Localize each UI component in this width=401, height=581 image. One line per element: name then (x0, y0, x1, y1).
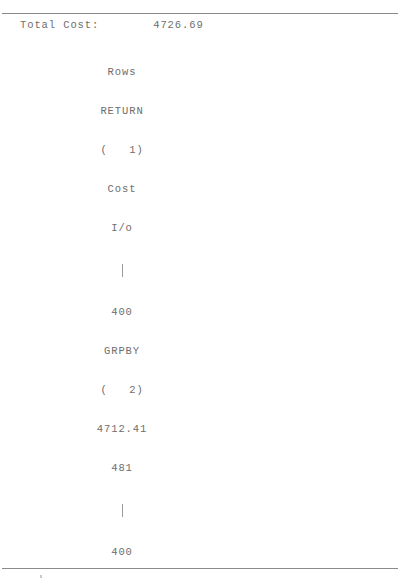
node-operator: RETURN (0, 105, 244, 118)
node-io: I/o (0, 222, 244, 235)
node-rows: 400 (0, 306, 244, 319)
connector-return-grpby (0, 261, 244, 280)
total-cost-label: Total Cost: (20, 19, 99, 31)
access-plan-tree: Rows RETURN ( 1) Cost I/o 400 GRPBY ( 2)… (0, 40, 401, 581)
plan-node-grpby: 400 GRPBY ( 2) 4712.41 481 (0, 280, 244, 501)
node-io: 481 (0, 462, 244, 475)
node-id: ( 2) (0, 384, 244, 397)
connector-grpby-tbscan (0, 501, 244, 520)
total-cost-line: Total Cost:4726.69 (20, 19, 204, 31)
node-operator: GRPBY (0, 345, 244, 358)
node-rows: Rows (0, 66, 244, 79)
plan-node-return: Rows RETURN ( 1) Cost I/o (0, 40, 244, 261)
node-id: ( 1) (0, 144, 244, 157)
node-rows: 400 (0, 546, 244, 559)
plan-node-tbscan: 400 TBSCAN ( 3) 4708.4 481 (0, 520, 244, 581)
node-cost: 4712.41 (0, 423, 244, 436)
total-cost-value: 4726.69 (99, 19, 203, 31)
top-horizontal-rule (2, 13, 398, 14)
node-cost: Cost (0, 183, 244, 196)
